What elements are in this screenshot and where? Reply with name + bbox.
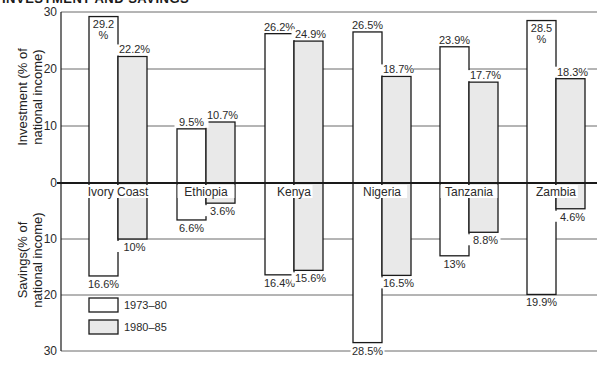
- value-label: %: [537, 33, 547, 45]
- bar-savings-nigeria-1973-80: [353, 183, 382, 343]
- value-label: 16.5%: [383, 277, 414, 289]
- bar-investment-ivory-coast-1973-80: [89, 17, 118, 183]
- value-label: 17.7%: [470, 69, 501, 81]
- bar-investment-ivory-coast-1980-85: [118, 56, 147, 183]
- bar-investment-tanzania-1980-85: [469, 82, 498, 183]
- value-label: 9.5%: [179, 116, 204, 128]
- value-label: 10%: [123, 241, 145, 253]
- value-label: 15.6%: [295, 272, 326, 284]
- value-label: 26.5%: [352, 19, 383, 31]
- value-label: 19.9%: [526, 296, 557, 308]
- country-label-kenya: Kenya: [277, 185, 311, 199]
- value-label: 3.6%: [210, 205, 235, 217]
- bar-investment-kenya-1980-85: [294, 41, 323, 183]
- bar-investment-zambia-1973-80: [527, 21, 556, 183]
- value-label: 28.5%: [352, 345, 383, 357]
- bar-investment-ethiopia-1973-80: [177, 129, 206, 183]
- bar-investment-ethiopia-1980-85: [206, 122, 235, 183]
- investment-savings-bar-chart: 3020100102030 Ivory CoastEthiopiaKenyaNi…: [0, 0, 609, 368]
- bars: [89, 17, 585, 343]
- bar-investment-tanzania-1973-80: [440, 47, 469, 183]
- value-label: 4.6%: [560, 211, 585, 223]
- value-label: 18.3%: [557, 66, 588, 78]
- tick-label-savings-20: 20: [44, 288, 58, 302]
- value-label: 10.7%: [207, 109, 238, 121]
- legend-label-1973-80: 1973–80: [124, 299, 167, 311]
- country-label-ivory-coast: Ivory Coast: [88, 185, 149, 199]
- bar-investment-zambia-1980-85: [556, 79, 585, 183]
- value-label: 26.2%: [264, 21, 295, 33]
- value-label: 22.2%: [119, 43, 150, 55]
- country-label-tanzania: Tanzania: [445, 185, 493, 199]
- value-label: 16.6%: [88, 278, 119, 290]
- value-label: 16.4%: [264, 277, 295, 289]
- value-label: 18.7%: [383, 63, 414, 75]
- tick-label-savings-10: 10: [44, 232, 58, 246]
- bar-savings-zambia-1973-80: [527, 183, 556, 294]
- value-label: 13%: [443, 258, 465, 270]
- value-label: 23.9%: [439, 34, 470, 46]
- bar-investment-nigeria-1980-85: [382, 76, 411, 183]
- value-label: 8.8%: [473, 234, 498, 246]
- value-label: %: [99, 29, 109, 41]
- tick-label-investment-10: 10: [44, 119, 58, 133]
- value-label: 24.9%: [295, 28, 326, 40]
- value-label: 6.6%: [179, 222, 204, 234]
- country-label-zambia: Zambia: [536, 185, 576, 199]
- legend-swatch-1980-85: [89, 320, 118, 334]
- bar-investment-nigeria-1973-80: [353, 32, 382, 183]
- legend-label-1980-85: 1980–85: [124, 321, 167, 333]
- bar-investment-kenya-1973-80: [265, 34, 294, 183]
- country-label-ethiopia: Ethiopia: [184, 185, 228, 199]
- legend-swatch-1973-80: [89, 298, 118, 312]
- tick-label-investment-20: 20: [44, 62, 58, 76]
- tick-label-investment-30: 30: [44, 5, 58, 19]
- legend: 1973–801980–85: [89, 298, 167, 334]
- country-label-nigeria: Nigeria: [363, 185, 401, 199]
- tick-label-savings-30: 30: [44, 344, 58, 358]
- tick-label-investment-0: 0: [50, 176, 57, 190]
